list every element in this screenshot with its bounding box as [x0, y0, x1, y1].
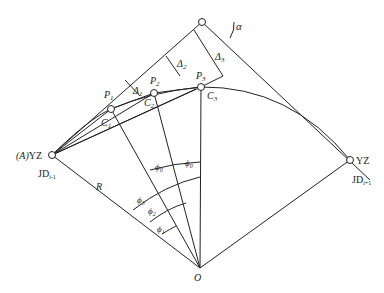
curve-layout-diagram: α Δ1 Δ2 Δ3 P1 P2 P3 C1 C2 C3 (A)YZ YZ JD… — [0, 0, 384, 293]
jd-next-label: JDi+1 — [352, 174, 371, 186]
tangent-line-right — [202, 22, 370, 180]
p2-node — [151, 90, 158, 97]
radius-label: R — [95, 181, 102, 192]
radius-right — [200, 160, 350, 268]
c3-label: C3 — [207, 90, 218, 103]
tangent-line-left — [52, 22, 202, 155]
radius-p3 — [200, 87, 201, 268]
radius-p1 — [111, 109, 200, 268]
p2-label: P2 — [149, 75, 160, 88]
phi0b-label: ϕ0 — [185, 158, 193, 169]
radius-left — [52, 155, 200, 268]
p3-node — [198, 84, 205, 91]
delta1-label: Δ1 — [132, 85, 142, 98]
chord-a-c-extra — [52, 89, 196, 155]
p1-node — [108, 106, 115, 113]
alpha-label: α — [236, 20, 242, 32]
p1-label: P1 — [103, 89, 114, 102]
phi1-label: ϕ1 — [157, 224, 165, 235]
radius-p2 — [154, 93, 200, 268]
center-label: O — [194, 272, 201, 283]
phi3-label: ϕ3 — [137, 195, 145, 206]
delta2-label: Δ2 — [176, 58, 187, 71]
phi2-label: ϕ2 — [148, 206, 156, 217]
delta3-label: Δ3 — [214, 51, 225, 64]
p3-label: P3 — [195, 70, 206, 83]
c1-label: C1 — [101, 117, 111, 130]
yz-left-node — [49, 152, 56, 159]
alpha-arc — [230, 22, 234, 38]
yz-left-label: (A)YZ — [16, 150, 42, 162]
c2-label: C2 — [144, 97, 155, 110]
yz-right-node — [347, 157, 354, 164]
jd-node — [199, 19, 206, 26]
yz-right-label: YZ — [356, 155, 369, 166]
phi0-label: ϕ0 — [155, 162, 163, 173]
jd-prev-label: JDi-1 — [38, 168, 56, 180]
